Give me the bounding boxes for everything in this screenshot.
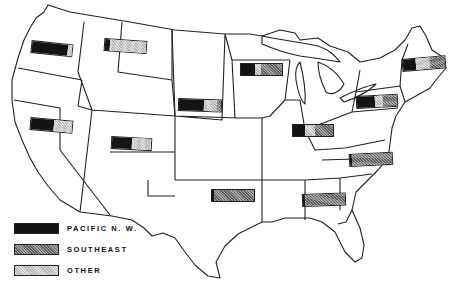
other-swatch — [14, 265, 59, 276]
bar-segment-se — [352, 153, 392, 166]
bar-segment-se — [315, 125, 333, 136]
bar-segment-pnw — [293, 125, 305, 136]
legend-label-southeast: SOUTHEAST — [67, 245, 128, 254]
region-bar-mid-atlantic — [356, 94, 399, 109]
us-map: PACIFIC N. W. SOUTHEAST OTHER — [0, 0, 455, 285]
bar-segment-pnw — [357, 96, 376, 108]
region-bar-upper-midwest — [240, 63, 283, 76]
legend-item-pacific-nw: PACIFIC N. W. — [14, 219, 138, 237]
bar-segment-se — [261, 64, 282, 75]
bar-segment-se — [214, 190, 254, 201]
bar-segment-se — [304, 194, 345, 206]
legend-item-other: OTHER — [14, 261, 138, 279]
bar-segment-other — [305, 125, 315, 136]
southeast-swatch — [14, 244, 59, 255]
bar-segment-other — [131, 138, 151, 150]
bar-segment-other — [53, 120, 72, 133]
florida-outline — [338, 210, 352, 224]
legend-label-other: OTHER — [67, 266, 101, 275]
legend-label-pacific-nw: PACIFIC N. W. — [67, 224, 138, 233]
bar-segment-pnw — [179, 99, 205, 111]
bar-segment-se — [383, 95, 398, 107]
region-bar-south-atlantic — [349, 152, 394, 167]
bar-segment-pnw — [31, 118, 54, 131]
bar-segment-se — [217, 100, 222, 111]
bar-segment-pnw — [112, 137, 132, 149]
legend: PACIFIC N. W. SOUTHEAST OTHER — [14, 219, 138, 282]
pacific-nw-swatch — [14, 223, 59, 234]
region-bar-utah-colorado — [111, 136, 153, 151]
legend-item-southeast: SOUTHEAST — [14, 240, 138, 258]
region-bar-south-central — [211, 189, 255, 202]
region-bar-deep-south — [302, 192, 346, 207]
bar-segment-other — [204, 100, 217, 111]
bar-segment-other — [67, 45, 72, 56]
bar-segment-se — [430, 56, 446, 68]
bar-segment-other — [415, 58, 431, 70]
bar-segment-pnw — [241, 64, 255, 75]
bar-segment-pnw — [31, 41, 68, 56]
region-bar-central — [292, 124, 334, 137]
bar-segment-other — [110, 39, 147, 52]
region-bar-northern-plains — [178, 98, 222, 113]
bar-segment-pnw — [403, 59, 417, 71]
